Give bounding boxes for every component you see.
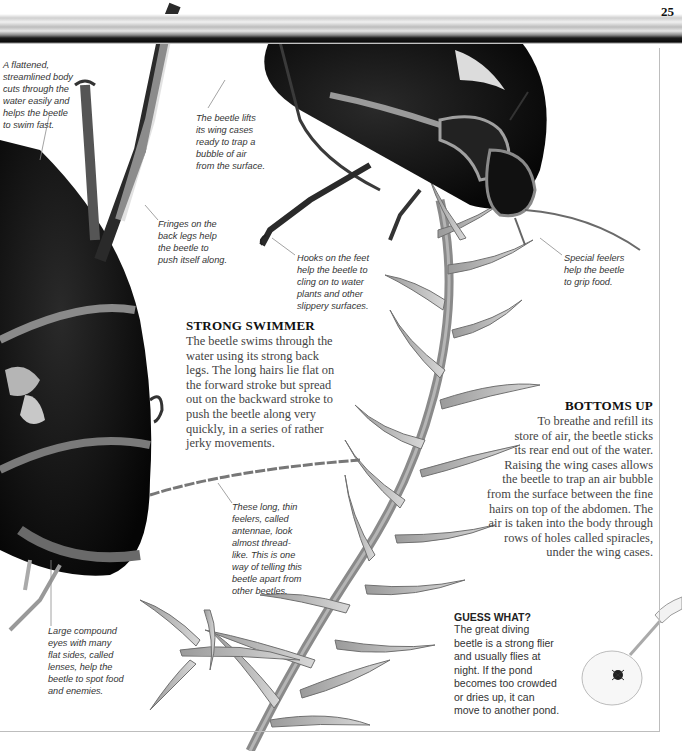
frame-right-rule (659, 48, 660, 732)
caption-line: A flattened, (3, 59, 113, 71)
body-line: move to another pond. (454, 704, 584, 718)
caption-line: to grip food. (564, 276, 654, 288)
body-line: beetle is a strong flier (454, 637, 584, 651)
caption-line: ready to trap a (196, 136, 286, 148)
body-line: becomes too crowded (454, 677, 584, 691)
caption-line: way of telling this (232, 561, 342, 573)
body-line: and usually flies at (454, 650, 584, 664)
caption-eyes: Large compound eyes with many flat sides… (48, 625, 158, 697)
caption-line: antennae, look (232, 525, 342, 537)
section-heading: GUESS WHAT? (454, 611, 584, 623)
section-body: The great diving beetle is a strong flie… (454, 623, 584, 718)
body-line: night. If the pond (454, 664, 584, 678)
body-line: jerky movements. (186, 436, 366, 451)
body-line: or dries up, it can (454, 691, 584, 705)
caption-line: help the beetle (564, 264, 654, 276)
caption-line: its wing cases (196, 124, 286, 136)
caption-line: eyes with many (48, 637, 158, 649)
section-bottoms-up: BOTTOMS UP To breathe and refill its sto… (470, 398, 653, 560)
body-line: store of air, the beetle sticks (470, 429, 653, 444)
caption-line: back legs help (158, 230, 248, 242)
caption-feelers: Special feelers help the beetle to grip … (564, 252, 654, 288)
body-line: hairs on top of the abdomen. The (470, 502, 653, 517)
body-line: To breathe and refill its (470, 414, 653, 429)
body-line: legs. The long hairs lie flat on (186, 363, 366, 378)
caption-fringes: Fringes on the back legs help the beetle… (158, 218, 248, 266)
caption-line: other beetles. (232, 585, 342, 597)
caption-line: These long, thin (232, 501, 342, 513)
caption-line: to swim fast. (3, 119, 113, 131)
water-surface-bar (0, 14, 682, 44)
section-heading: STRONG SWIMMER (186, 318, 366, 334)
caption-line: the beetle to (158, 242, 248, 254)
caption-line: Large compound (48, 625, 158, 637)
caption-line: Hooks on the feet (297, 252, 397, 264)
body-line: out on the backward stroke to (186, 392, 366, 407)
caption-line: cuts through the (3, 83, 113, 95)
caption-streamlined: A flattened, streamlined body cuts throu… (3, 59, 113, 131)
caption-line: from the surface. (196, 160, 286, 172)
section-body: To breathe and refill its store of air, … (470, 414, 653, 560)
caption-line: The beetle lifts (196, 112, 286, 124)
caption-line: lenses, help the (48, 661, 158, 673)
caption-line: like. This is one (232, 549, 342, 561)
caption-line: almost thread- (232, 537, 342, 549)
caption-line: water easily and (3, 95, 113, 107)
caption-line: bubble of air (196, 148, 286, 160)
section-heading: BOTTOMS UP (470, 398, 653, 414)
section-guess-what: GUESS WHAT? The great diving beetle is a… (454, 611, 584, 718)
body-line: air is taken into the body through (470, 516, 653, 531)
caption-line: beetle to spot food (48, 673, 158, 685)
caption-line: cling on to water (297, 276, 397, 288)
body-line: Raising the wing cases allows (470, 458, 653, 473)
body-line: push the beetle along very (186, 407, 366, 422)
body-line: from the surface between the fine (470, 487, 653, 502)
body-line: The beetle swims through the (186, 334, 366, 349)
caption-line: plants and other (297, 288, 397, 300)
body-line: under the wing cases. (470, 545, 653, 560)
caption-line: help the beetle to (297, 264, 397, 276)
caption-line: Fringes on the (158, 218, 248, 230)
caption-line: streamlined body (3, 71, 113, 83)
body-line: quickly, in a series of rather (186, 422, 366, 437)
body-line: the beetle to trap an air bubble (470, 472, 653, 487)
hand-net-icon (582, 597, 682, 705)
caption-line: flat sides, called (48, 649, 158, 661)
section-strong-swimmer: STRONG SWIMMER The beetle swims through … (186, 318, 366, 451)
body-line: The great diving (454, 623, 584, 637)
caption-hooks: Hooks on the feet help the beetle to cli… (297, 252, 397, 312)
page-number: 25 (661, 4, 674, 20)
caption-line: and enemies. (48, 685, 158, 697)
section-body: The beetle swims through the water using… (186, 334, 366, 451)
body-line: the forward stroke but spread (186, 378, 366, 393)
caption-antennae: These long, thin feelers, called antenna… (232, 501, 342, 597)
caption-line: slippery surfaces. (297, 300, 397, 312)
caption-line: helps the beetle (3, 107, 113, 119)
caption-line: push itself along. (158, 254, 248, 266)
body-line: rows of holes called spiracles, (470, 531, 653, 546)
frame-bottom-rule (0, 731, 660, 732)
body-line: water using its strong back (186, 349, 366, 364)
body-line: its rear end out of the water. (470, 443, 653, 458)
caption-wing-cases: The beetle lifts its wing cases ready to… (196, 112, 286, 172)
caption-line: feelers, called (232, 513, 342, 525)
caption-line: Special feelers (564, 252, 654, 264)
caption-line: beetle apart from (232, 573, 342, 585)
